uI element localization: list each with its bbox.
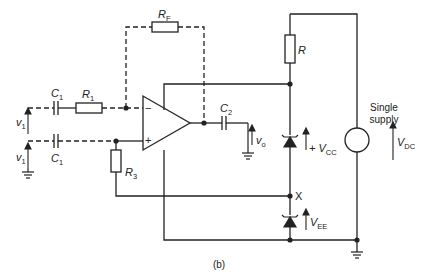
dc-source xyxy=(345,128,369,152)
label-opamp-minus: − xyxy=(145,102,151,114)
label-node-x: X xyxy=(295,190,303,202)
label-r1: R1 xyxy=(82,88,94,103)
label-vee: VEE xyxy=(310,216,327,231)
resistor-r xyxy=(285,35,295,63)
label-vcc: + VCC xyxy=(309,142,337,157)
label-vo: vo xyxy=(256,134,266,149)
label-vdc: VDC xyxy=(397,136,416,151)
label-c1-bottom: C1 xyxy=(51,152,63,167)
circuit-diagram: RF R1 C1 C1 C2 R3 R v1 v1 vo + VCC VEE V… xyxy=(0,0,422,280)
label-c2: C2 xyxy=(220,102,232,117)
label-v1-bottom: v1 xyxy=(16,151,26,166)
label-supply-line1: Single xyxy=(370,102,398,113)
label-supply-line2: supply xyxy=(370,114,399,125)
resistor-r3 xyxy=(111,150,121,172)
wire-top-rail xyxy=(290,14,357,128)
label-c1-top: C1 xyxy=(51,87,63,102)
zener-vcc xyxy=(284,137,296,147)
label-r3: R3 xyxy=(125,166,137,181)
zener-vee xyxy=(284,217,296,227)
resistor-r1 xyxy=(76,103,102,113)
label-v1-top: v1 xyxy=(16,116,26,131)
resistor-rf xyxy=(152,22,178,32)
label-opamp-plus: + xyxy=(145,134,151,146)
figure-caption: (b) xyxy=(213,259,225,270)
label-rf: RF xyxy=(158,8,171,23)
label-r: R xyxy=(298,44,306,56)
